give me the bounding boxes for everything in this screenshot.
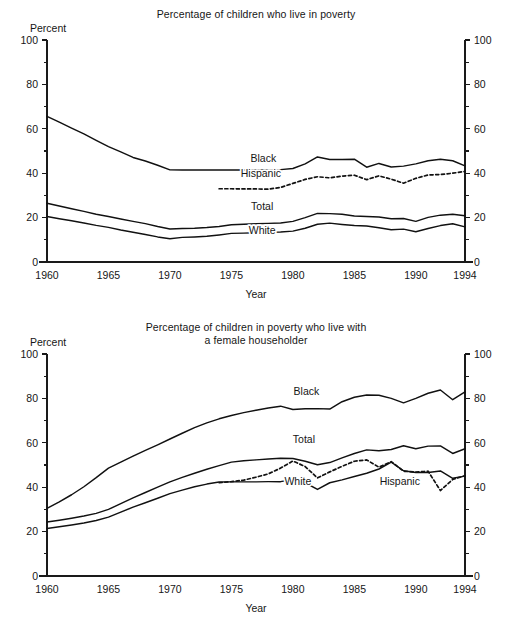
y-tick-label-left: 40: [26, 481, 38, 493]
x-tick-label: 1960: [35, 269, 59, 281]
series-label-black: Black: [251, 152, 277, 164]
plot-area-female-householder: Percent002020404060608080100100196019651…: [0, 305, 512, 621]
series-label-hispanic: Hispanic: [241, 167, 281, 179]
y-axis-unit-label-left: Percent: [30, 336, 66, 348]
chart-female-householder: Percentage of children in poverty who li…: [0, 305, 512, 621]
x-tick-label: 1994: [453, 269, 477, 281]
x-tick-label: 1975: [220, 583, 244, 595]
x-tick-label: 1960: [35, 583, 59, 595]
y-tick-label-left: 20: [26, 211, 38, 223]
y-tick-label-left: 20: [26, 525, 38, 537]
x-axis-label: Year: [245, 288, 267, 300]
y-tick-label-right: 60: [474, 437, 486, 449]
y-tick-label-right: 80: [474, 78, 486, 90]
x-tick-label: 1990: [404, 269, 428, 281]
x-tick-label: 1980: [281, 583, 305, 595]
y-tick-label-right: 60: [474, 123, 486, 135]
y-tick-label-right: 0: [474, 570, 480, 582]
plot-area-poverty-rate: Percent002020404060608080100100196019651…: [0, 0, 512, 305]
series-label-total: Total: [251, 200, 273, 212]
y-tick-label-left: 80: [26, 78, 38, 90]
series-label-white: White: [284, 475, 311, 487]
x-axis-label: Year: [245, 602, 267, 614]
series-label-hispanic: Hispanic: [380, 475, 420, 487]
x-tick-label: 1970: [158, 269, 182, 281]
y-tick-label-left: 100: [20, 348, 38, 360]
y-axis-unit-label-left: Percent: [30, 22, 66, 34]
y-tick-label-right: 100: [474, 34, 492, 46]
x-tick-label: 1985: [343, 269, 367, 281]
series-line-hispanic: [219, 460, 465, 491]
y-tick-label-right: 80: [474, 392, 486, 404]
x-tick-label: 1965: [97, 583, 121, 595]
y-tick-label-left: 100: [20, 34, 38, 46]
series-line-black: [47, 390, 465, 508]
series-label-total: Total: [293, 433, 315, 445]
x-tick-label: 1970: [158, 583, 182, 595]
y-tick-label-right: 20: [474, 211, 486, 223]
x-tick-label: 1990: [404, 583, 428, 595]
chart-poverty-rate: Percentage of children who live in pover…: [0, 0, 512, 305]
y-tick-label-right: 0: [474, 256, 480, 268]
x-tick-label: 1975: [220, 269, 244, 281]
series-label-white: White: [249, 224, 276, 236]
y-tick-label-left: 60: [26, 123, 38, 135]
x-tick-label: 1965: [97, 269, 121, 281]
y-tick-label-right: 20: [474, 525, 486, 537]
y-tick-label-left: 60: [26, 437, 38, 449]
x-tick-label: 1985: [343, 583, 367, 595]
series-label-black: Black: [294, 385, 320, 397]
y-tick-label-left: 40: [26, 167, 38, 179]
series-line-white: [47, 462, 465, 528]
y-tick-label-left: 80: [26, 392, 38, 404]
x-tick-label: 1980: [281, 269, 305, 281]
y-tick-label-right: 40: [474, 481, 486, 493]
y-tick-label-left: 0: [32, 256, 38, 268]
y-tick-label-left: 0: [32, 570, 38, 582]
y-tick-label-right: 100: [474, 348, 492, 360]
x-tick-label: 1994: [453, 583, 477, 595]
y-tick-label-right: 40: [474, 167, 486, 179]
